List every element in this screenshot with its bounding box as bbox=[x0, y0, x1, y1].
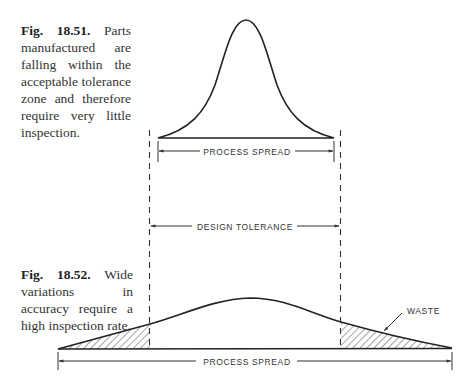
baseline bbox=[58, 349, 452, 350]
tolerance-diagram: PROCESS SPREAD DESIGN TOLERANCE PROCESS … bbox=[0, 0, 472, 386]
bottom-process-spread-label: PROCESS SPREAD bbox=[203, 357, 290, 367]
design-tolerance-label: DESIGN TOLERANCE bbox=[197, 222, 293, 232]
narrow-distribution-curve bbox=[158, 20, 334, 138]
waste-leader-arrow bbox=[384, 313, 402, 331]
top-process-spread-label: PROCESS SPREAD bbox=[203, 147, 290, 157]
waste-label: WASTE bbox=[407, 306, 440, 316]
